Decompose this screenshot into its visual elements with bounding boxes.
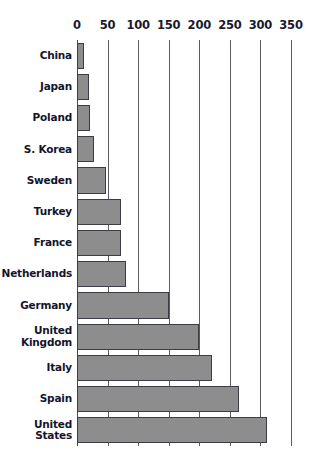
category-label-line: Spain [0, 393, 72, 405]
bar[interactable] [77, 230, 121, 256]
category-label: UnitedStates [0, 419, 72, 442]
bar-slot [77, 199, 291, 225]
category-label: Sweden [0, 175, 72, 187]
bar[interactable] [77, 355, 212, 381]
category-label: S. Korea [0, 144, 72, 156]
bar[interactable] [77, 261, 126, 287]
bar-slot [77, 136, 291, 162]
x-tick-label: 350 [279, 18, 302, 32]
bar-slot [77, 74, 291, 100]
bar[interactable] [77, 292, 169, 318]
category-label: Spain [0, 393, 72, 405]
category-axis-labels: ChinaJapanPolandS. KoreaSwedenTurkeyFran… [0, 40, 72, 446]
x-tick-label: 150 [157, 18, 180, 32]
x-tick-label: 100 [126, 18, 149, 32]
bars-group [77, 40, 291, 446]
category-label-line: United [0, 325, 72, 337]
category-label-line: Poland [0, 112, 72, 124]
x-tick-label: 0 [73, 18, 81, 32]
category-label: France [0, 237, 72, 249]
x-tick-label: 50 [100, 18, 116, 32]
gridline [291, 40, 292, 446]
bar[interactable] [77, 386, 239, 412]
x-tick-label: 200 [188, 18, 211, 32]
category-label-line: States [0, 430, 72, 442]
x-tick-label: 300 [249, 18, 272, 32]
bar-slot [77, 105, 291, 131]
category-label: Germany [0, 300, 72, 312]
bar[interactable] [77, 43, 84, 69]
bar-slot [77, 43, 291, 69]
category-label-line: S. Korea [0, 144, 72, 156]
category-label-line: China [0, 50, 72, 62]
category-label: Italy [0, 362, 72, 374]
category-label: Japan [0, 81, 72, 93]
category-label-line: Italy [0, 362, 72, 374]
category-label: Turkey [0, 206, 72, 218]
bar-slot [77, 386, 291, 412]
category-label: Poland [0, 112, 72, 124]
bar[interactable] [77, 417, 267, 443]
bar[interactable] [77, 74, 89, 100]
bar-slot [77, 355, 291, 381]
bar[interactable] [77, 136, 94, 162]
category-label-line: Netherlands [0, 268, 72, 280]
bar[interactable] [77, 167, 106, 193]
x-tick-label: 250 [218, 18, 241, 32]
category-label: Netherlands [0, 268, 72, 280]
plot-area [77, 40, 291, 446]
x-axis-tick-labels: 050100150200250300350 [0, 18, 313, 36]
category-label-line: Japan [0, 81, 72, 93]
bar-slot [77, 261, 291, 287]
category-label-line: Kingdom [0, 337, 72, 349]
bar-slot [77, 324, 291, 350]
bar-slot [77, 230, 291, 256]
bar-chart: 050100150200250300350 ChinaJapanPolandS.… [0, 0, 313, 454]
category-label: UnitedKingdom [0, 325, 72, 348]
bar[interactable] [77, 199, 121, 225]
bar-slot [77, 417, 291, 443]
category-label-line: Sweden [0, 175, 72, 187]
category-label: China [0, 50, 72, 62]
bar-slot [77, 167, 291, 193]
bar[interactable] [77, 324, 199, 350]
bar[interactable] [77, 105, 90, 131]
category-label-line: Turkey [0, 206, 72, 218]
category-label-line: Germany [0, 300, 72, 312]
bar-slot [77, 292, 291, 318]
category-label-line: France [0, 237, 72, 249]
